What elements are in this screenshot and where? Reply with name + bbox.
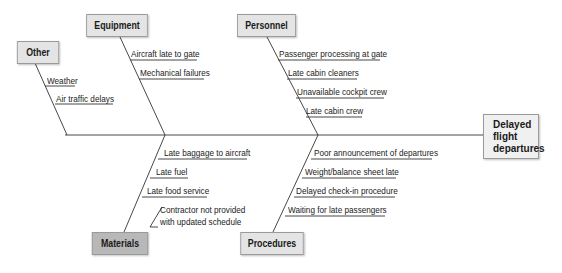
effect-line-1: Delayed xyxy=(493,119,538,131)
category-procedures: Procedures xyxy=(240,232,303,255)
cause-passenger-processing: Passenger processing at gate xyxy=(279,48,387,59)
cause-poor-announcement: Poor announcement of departures xyxy=(314,147,438,158)
bone-materials xyxy=(124,135,165,232)
category-materials: Materials xyxy=(92,232,148,255)
category-procedures-label: Procedures xyxy=(248,238,296,249)
category-other-label: Other xyxy=(26,47,49,58)
cause-late-cabin-crew: Late cabin crew xyxy=(306,105,363,116)
effect-box: Delayed flight departures xyxy=(483,114,539,159)
cause-late-baggage: Late baggage to aircraft xyxy=(164,147,250,158)
cause-unavailable-cockpit-crew: Unavailable cockpit crew xyxy=(297,86,387,97)
cause-late-cabin-cleaners: Late cabin cleaners xyxy=(288,67,359,78)
effect-line-2: flight xyxy=(493,131,538,143)
subcause-contractor-line2: with updated schedule xyxy=(160,216,241,227)
cause-late-food-service: Late food service xyxy=(147,185,209,196)
category-equipment-label: Equipment xyxy=(94,20,139,31)
category-materials-label: Materials xyxy=(101,238,139,249)
cause-aircraft-late-to-gate: Aircraft late to gate xyxy=(131,48,200,59)
cause-mechanical-failures: Mechanical failures xyxy=(140,67,210,78)
cause-waiting-late-passengers: Waiting for late passengers xyxy=(288,204,387,215)
bone-procedures xyxy=(273,135,318,232)
category-other: Other xyxy=(17,41,59,64)
category-personnel: Personnel xyxy=(237,14,296,37)
cause-weight-balance-sheet: Weight/balance sheet late xyxy=(305,166,399,177)
cause-late-fuel: Late fuel xyxy=(156,166,187,177)
cause-delayed-check-in: Delayed check-in procedure xyxy=(296,185,398,196)
category-personnel-label: Personnel xyxy=(245,20,288,31)
category-equipment: Equipment xyxy=(86,14,148,37)
subcause-contractor-line1: Contractor not provided xyxy=(160,204,245,215)
cause-air-traffic-delays: Air traffic delays xyxy=(56,93,114,104)
effect-line-3: departures xyxy=(493,143,538,155)
cause-weather: Weather xyxy=(47,75,78,86)
